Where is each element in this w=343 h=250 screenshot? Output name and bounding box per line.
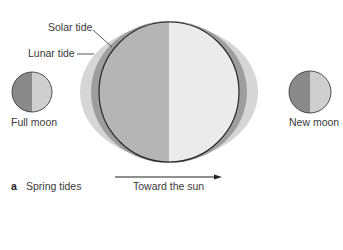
panel-letter: a [11, 180, 17, 192]
new-moon [289, 71, 332, 114]
spring-tides-diagram: Solar tide Lunar tide Full moon New moon… [0, 0, 343, 250]
full-moon-label: Full moon [11, 116, 57, 128]
toward-sun-arrow [115, 175, 222, 180]
full-moon-dark-half [12, 72, 32, 113]
panel-title: Spring tides [26, 180, 81, 192]
new-moon-label: New moon [289, 116, 339, 128]
earth-day-side [169, 20, 240, 165]
new-moon-light-half [310, 71, 332, 114]
new-moon-dark-half [289, 71, 310, 114]
full-moon [12, 72, 53, 113]
full-moon-light-half [32, 72, 53, 113]
solar-tide-leader-line [93, 30, 112, 47]
solar-tide-label: Solar tide [48, 21, 93, 33]
direction-label: Toward the sun [133, 180, 204, 192]
arrowhead-icon [214, 175, 222, 180]
lunar-tide-label: Lunar tide [28, 47, 75, 59]
